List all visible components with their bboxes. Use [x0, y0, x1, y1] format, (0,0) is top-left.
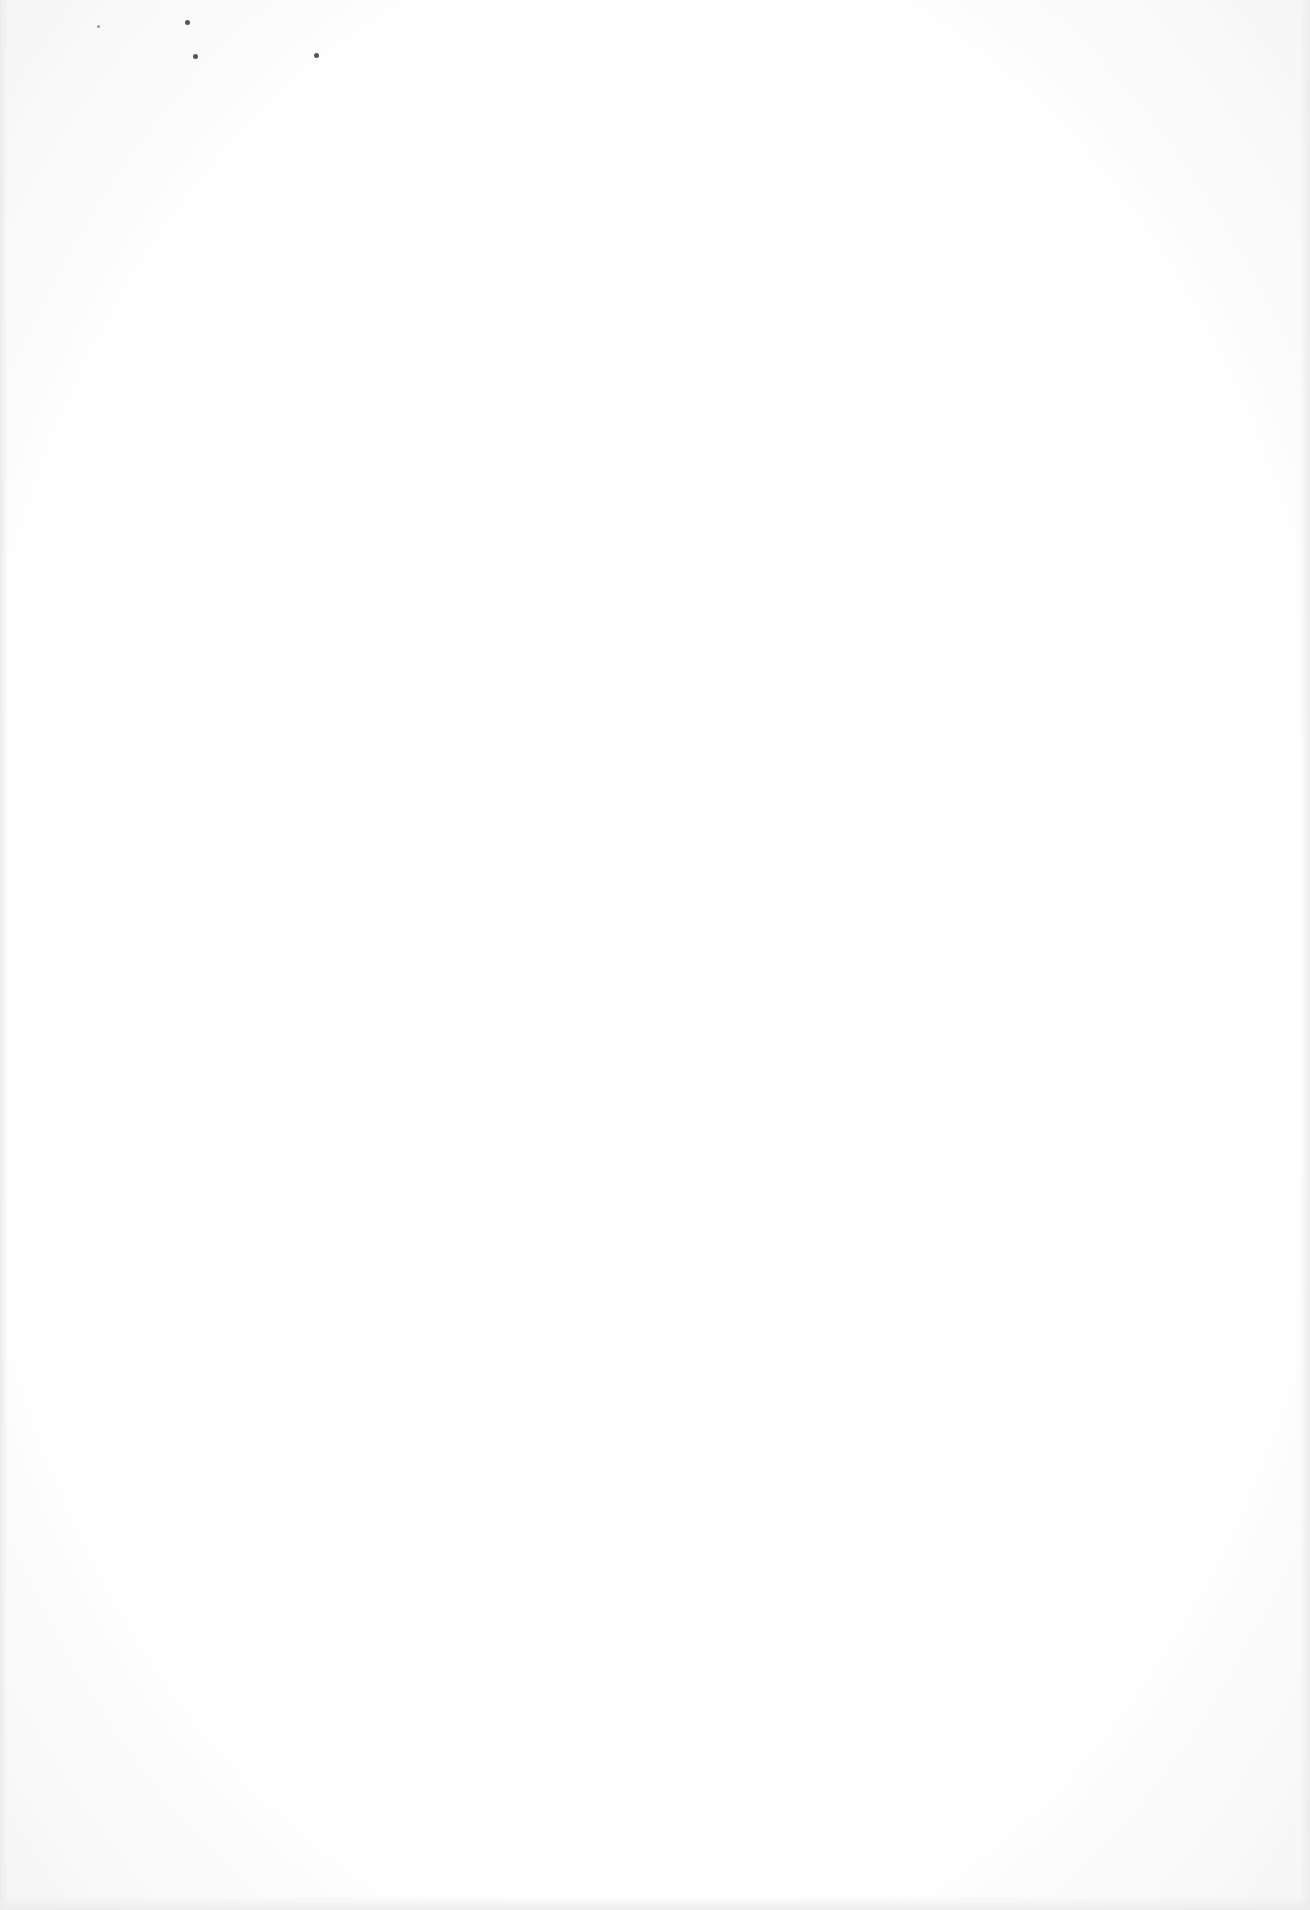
- speck: [193, 54, 198, 59]
- speck: [97, 25, 100, 28]
- blank-page: [0, 0, 1310, 1910]
- bleed-through-marks: [45, 22, 645, 72]
- speck: [185, 20, 190, 25]
- page-edge-bottom: [0, 1896, 1310, 1910]
- page-edge-right: [1300, 0, 1310, 1910]
- page-edge-left: [0, 0, 8, 1910]
- speck: [314, 53, 319, 58]
